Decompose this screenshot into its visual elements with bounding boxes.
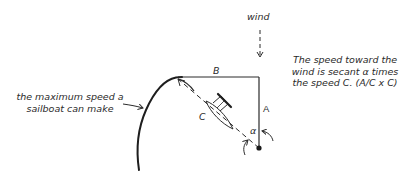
label-c: C bbox=[199, 111, 206, 123]
annotation-right-line-2: wind is secant α times bbox=[283, 66, 407, 78]
label-a: A bbox=[263, 103, 269, 115]
annotation-right-line-3: the speed C. (A/C x C) bbox=[283, 77, 407, 89]
max-speed-curve bbox=[138, 77, 182, 170]
angle-arrow-right bbox=[262, 131, 273, 141]
sailboat-icon bbox=[206, 94, 233, 129]
label-b: B bbox=[213, 65, 220, 77]
wind-arrow-icon bbox=[257, 30, 263, 57]
annotation-right-line-1: The speed toward the bbox=[283, 54, 407, 66]
annotation-left-line-1: the maximum speed a bbox=[14, 91, 126, 103]
angle-arrow-left bbox=[244, 140, 248, 155]
label-alpha: α bbox=[250, 125, 256, 137]
annotation-left-line-2: sailboat can make bbox=[14, 103, 126, 115]
annotation-left: the maximum speed a sailboat can make bbox=[14, 91, 126, 114]
origin-dot bbox=[256, 145, 261, 150]
annotation-pointer-arrow bbox=[123, 104, 143, 108]
wind-label: wind bbox=[247, 11, 269, 23]
vector-c-dashed-line bbox=[178, 79, 259, 148]
annotation-right: The speed toward the wind is secant α ti… bbox=[283, 54, 407, 89]
